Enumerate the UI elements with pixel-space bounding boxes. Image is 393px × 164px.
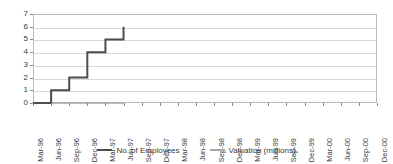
y-axis-tick-label: 7 [24, 10, 28, 18]
x-axis-tick-mark [142, 103, 143, 106]
legend-entry[interactable]: Valuation (millions) [210, 146, 296, 155]
y-axis-tick-label: 2 [24, 74, 28, 82]
x-axis-tick-mark [305, 103, 306, 106]
legend-entry[interactable]: No. of Employees [97, 146, 179, 155]
x-axis-tick-mark [160, 103, 161, 106]
x-axis-tick-mark [323, 103, 324, 106]
x-axis-tick-mark [33, 103, 34, 106]
employee-growth-chart: 76543210 Mar-96Jun-96Sep-96Dec-96Mar-97J… [0, 0, 393, 164]
y-axis-tick-label: 1 [24, 86, 28, 94]
chart-legend: No. of EmployeesValuation (millions) [0, 143, 393, 157]
employees-series-line [33, 27, 124, 103]
y-axis-tick-label: 0 [24, 99, 28, 107]
x-axis-tick-mark [268, 103, 269, 106]
x-axis-tick-mark [105, 103, 106, 106]
y-axis-tick-label: 4 [24, 48, 28, 56]
x-axis-tick-mark [359, 103, 360, 106]
legend-line-icon [210, 149, 225, 151]
x-axis-tick-mark [69, 103, 70, 106]
x-axis-tick-mark [232, 103, 233, 106]
y-axis-tick-label: 6 [24, 23, 28, 31]
x-axis-tick-mark [51, 103, 52, 106]
y-axis: 76543210 [0, 0, 33, 110]
x-axis-tick-mark [87, 103, 88, 106]
x-axis-tick-mark [286, 103, 287, 106]
x-axis-tick-mark [214, 103, 215, 106]
x-axis-labels: Mar-96Jun-96Sep-96Dec-96Mar-97Jun-97Sep-… [33, 107, 377, 140]
y-axis-tick-label: 5 [24, 35, 28, 43]
legend-label: No. of Employees [116, 146, 179, 155]
legend-label: Valuation (millions) [229, 146, 296, 155]
x-axis-tick-mark [377, 103, 378, 106]
x-axis-tick-mark [178, 103, 179, 106]
series-layer [33, 14, 377, 103]
x-axis-tick-mark [196, 103, 197, 106]
x-axis-tick-mark [250, 103, 251, 106]
x-axis-tick-mark [124, 103, 125, 106]
x-axis-tick-mark [341, 103, 342, 106]
y-axis-tick-label: 3 [24, 61, 28, 69]
legend-line-icon [97, 149, 112, 151]
